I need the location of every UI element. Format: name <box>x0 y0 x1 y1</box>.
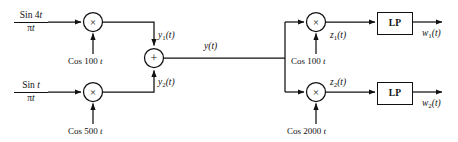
input-top-numerator: Sin 4t <box>14 11 48 23</box>
input-label-bottom: Sin t πt <box>14 81 48 104</box>
multiplier-symbol-3: × <box>313 17 319 28</box>
input-top-denominator: πt <box>14 23 48 34</box>
lowpass-filter-bottom: LP <box>377 82 413 105</box>
input-bottom-denominator: πt <box>14 93 48 104</box>
carrier-label-4: Cos 2000 t <box>287 127 326 136</box>
multiplier-symbol-4: × <box>313 87 319 98</box>
input-label-top: Sin 4t πt <box>14 11 48 34</box>
input-bottom-numerator: Sin t <box>14 81 48 93</box>
wire-mult2-to-summer <box>103 71 155 93</box>
lowpass-filter-top: LP <box>377 12 413 35</box>
signal-label-y1: y1(t) <box>158 31 175 42</box>
signal-label-z1: z1(t) <box>330 31 346 42</box>
signal-label-z2: z2(t) <box>330 78 346 89</box>
carrier-label-2: Cos 500 t <box>68 127 103 136</box>
signal-label-y2: y2(t) <box>158 78 175 89</box>
summer-symbol: + <box>151 51 158 65</box>
carrier-label-3: Cos 100 t <box>291 57 326 66</box>
multiplier-symbol-1: × <box>90 17 96 28</box>
wire-mult1-to-summer <box>103 22 155 46</box>
carrier-label-1: Cos 100 t <box>68 57 103 66</box>
block-diagram: × × + × × Sin 4t πt Sin t πt Cos 100 t C… <box>0 0 458 142</box>
multiplier-symbol-2: × <box>90 87 96 98</box>
signal-label-y: y(t) <box>204 42 217 52</box>
signal-label-w2: w2(t) <box>422 99 441 110</box>
signal-label-w1: w1(t) <box>422 29 441 40</box>
